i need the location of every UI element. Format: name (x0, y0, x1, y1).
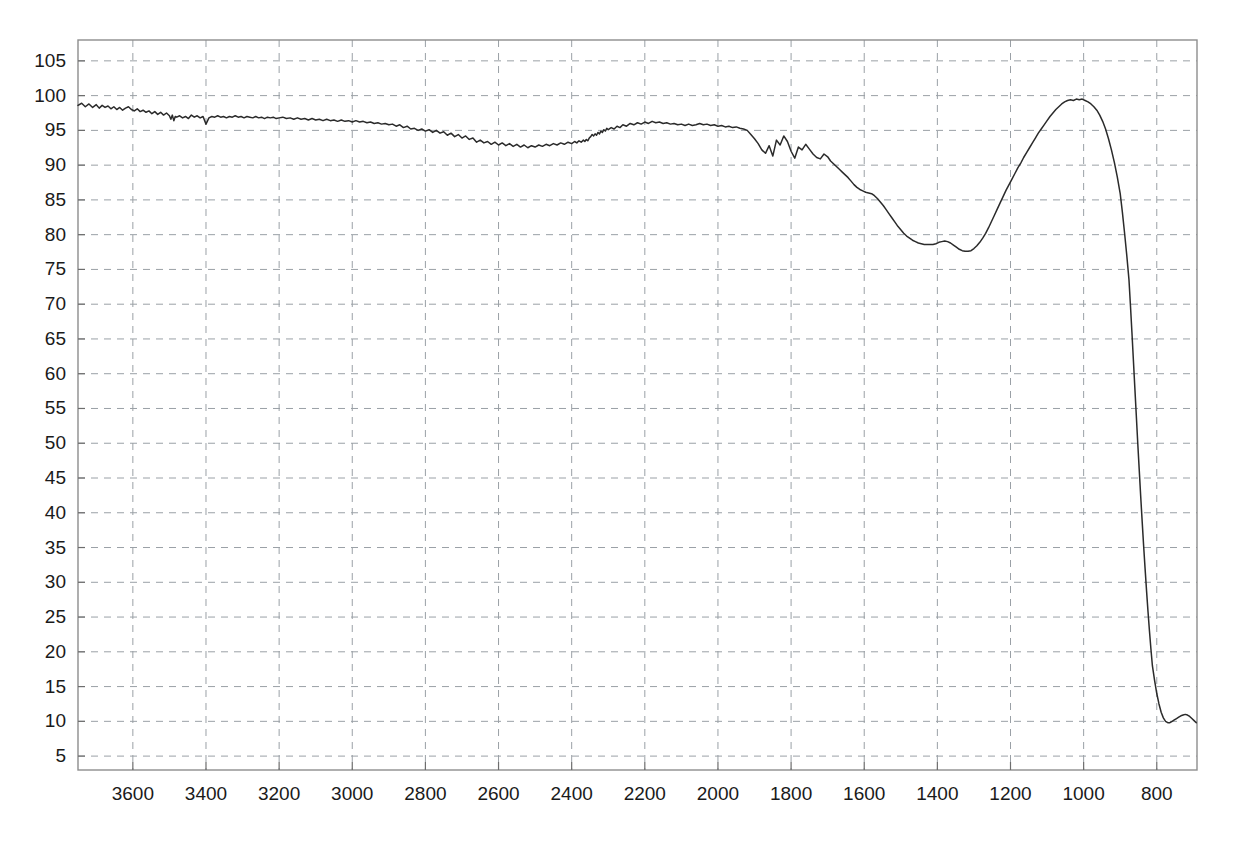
x-tick-label: 1200 (989, 783, 1031, 804)
y-tick-label: 85 (45, 189, 66, 210)
y-tick-label: 5 (55, 745, 66, 766)
y-tick-label: 35 (45, 537, 66, 558)
y-tick-label: 50 (45, 432, 66, 453)
y-tick-label: 40 (45, 502, 66, 523)
spectrum-plot-svg: 5101520253035404550556065707580859095100… (0, 0, 1244, 843)
x-tick-label: 800 (1141, 783, 1173, 804)
y-tick-label: 55 (45, 397, 66, 418)
x-tick-label: 2000 (697, 783, 739, 804)
x-tick-label: 2200 (624, 783, 666, 804)
y-tick-label: 80 (45, 224, 66, 245)
x-axis-tick-labels: 3600340032003000280026002400220020001800… (112, 783, 1173, 804)
x-tick-label: 2800 (404, 783, 446, 804)
y-tick-label: 60 (45, 363, 66, 384)
y-axis-tick-labels: 5101520253035404550556065707580859095100… (34, 50, 66, 766)
x-tick-label: 3400 (185, 783, 227, 804)
x-tick-label: 2400 (551, 783, 593, 804)
y-tick-label: 70 (45, 293, 66, 314)
x-tick-label: 1800 (770, 783, 812, 804)
y-tick-label: 30 (45, 571, 66, 592)
y-tick-label: 105 (34, 50, 66, 71)
x-tick-label: 1400 (916, 783, 958, 804)
y-tick-label: 75 (45, 258, 66, 279)
y-tick-label: 95 (45, 119, 66, 140)
spectrum-series-layer (78, 99, 1196, 723)
ir-spectrum-chart: 5101520253035404550556065707580859095100… (0, 0, 1244, 843)
axis-ticks-layer (78, 61, 1157, 770)
x-tick-label: 2600 (477, 783, 519, 804)
y-tick-label: 65 (45, 328, 66, 349)
x-tick-label: 1000 (1062, 783, 1104, 804)
spectrum-line (78, 99, 1196, 723)
x-tick-label: 3000 (331, 783, 373, 804)
x-tick-label: 3200 (258, 783, 300, 804)
y-tick-label: 100 (34, 85, 66, 106)
x-tick-label: 1600 (843, 783, 885, 804)
y-tick-label: 25 (45, 606, 66, 627)
y-tick-label: 45 (45, 467, 66, 488)
y-tick-label: 20 (45, 641, 66, 662)
y-tick-label: 15 (45, 676, 66, 697)
y-tick-label: 10 (45, 710, 66, 731)
y-tick-label: 90 (45, 154, 66, 175)
x-tick-label: 3600 (112, 783, 154, 804)
